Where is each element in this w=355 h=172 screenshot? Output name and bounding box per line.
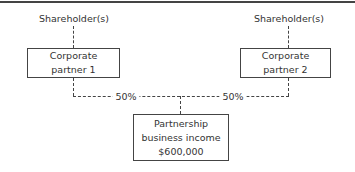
corporate-partner-2-box: Corporate partner 2 <box>240 48 331 78</box>
share-left-percent: 50% <box>112 91 139 102</box>
shareholders-right-connector <box>288 26 289 48</box>
shareholders-right-label: Shareholder(s) <box>254 13 324 24</box>
corporate-partner-1-box: Corporate partner 1 <box>27 48 120 78</box>
partner1-line1: Corporate <box>50 49 98 63</box>
partnership-connector <box>180 96 181 114</box>
partnership-line1: Partnership <box>154 117 208 131</box>
partnership-income-value: $600,000 <box>158 145 203 159</box>
partner2-line1: Corporate <box>262 49 310 63</box>
shareholders-left-label: Shareholder(s) <box>39 13 109 24</box>
ownership-connector-line <box>73 96 289 97</box>
partnership-box: Partnership business income $600,000 <box>133 114 229 161</box>
partner2-line2: partner 2 <box>263 63 307 77</box>
top-rule <box>0 1 355 3</box>
partner1-line2: partner 1 <box>51 63 95 77</box>
partner2-down-connector <box>288 78 289 96</box>
shareholders-left-connector <box>73 26 74 48</box>
share-right-percent: 50% <box>219 91 246 102</box>
partner1-down-connector <box>73 78 74 96</box>
partnership-line2: business income <box>141 131 220 145</box>
